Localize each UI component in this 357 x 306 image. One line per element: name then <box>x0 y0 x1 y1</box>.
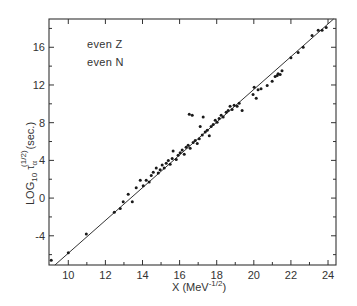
data-point <box>135 186 138 189</box>
data-point <box>325 26 328 29</box>
data-point <box>139 179 142 182</box>
data-point <box>253 86 256 89</box>
x-tick-label: 22 <box>285 269 297 281</box>
data-point <box>127 193 130 196</box>
y-tick-label: 16 <box>33 41 45 53</box>
y-axis-label: LOG10τα(1/2)(sec.) <box>19 122 39 205</box>
data-point <box>302 46 305 49</box>
data-point <box>188 113 191 116</box>
annotation-even-z: even Z <box>87 38 122 50</box>
data-point <box>289 56 292 59</box>
data-point <box>142 184 145 187</box>
data-point <box>212 123 215 126</box>
data-point <box>216 121 219 124</box>
data-point <box>161 164 164 167</box>
data-point <box>297 51 300 54</box>
data-point <box>271 80 274 83</box>
data-point <box>152 171 155 174</box>
data-point <box>171 157 174 160</box>
data-point <box>155 166 158 169</box>
y-tick-label: 12 <box>33 79 45 91</box>
data-point <box>231 108 234 111</box>
data-point <box>208 134 211 137</box>
x-tick-label: 24 <box>322 269 334 281</box>
data-point <box>169 163 172 166</box>
data-point <box>241 109 244 112</box>
data-point <box>119 207 122 210</box>
scatter-chart: 1012141618202224-40481216 even Z even N … <box>0 0 357 306</box>
data-point <box>255 97 258 100</box>
y-tick-label: 8 <box>39 117 45 129</box>
data-point <box>85 232 88 235</box>
y-tick-label: -4 <box>35 230 45 242</box>
data-point <box>317 29 320 32</box>
x-tick-label: 20 <box>248 269 260 281</box>
data-point <box>194 139 197 142</box>
data-point <box>157 172 160 175</box>
data-point <box>206 129 209 132</box>
data-point <box>238 102 241 105</box>
data-point <box>229 105 232 108</box>
data-point <box>187 144 190 147</box>
annotation-even-n: even N <box>87 56 124 68</box>
data-point <box>167 159 170 162</box>
data-point <box>222 116 225 119</box>
x-tick-label: 16 <box>173 269 185 281</box>
data-point <box>260 87 263 90</box>
data-point <box>218 117 221 120</box>
y-tick-label: 0 <box>39 192 45 204</box>
data-point <box>236 105 239 108</box>
data-point <box>199 125 202 128</box>
data-point <box>311 34 314 37</box>
data-point <box>159 168 162 171</box>
data-point <box>321 29 324 32</box>
data-point <box>145 179 148 182</box>
data-point <box>165 162 168 165</box>
data-point <box>150 174 153 177</box>
data-point <box>67 251 70 254</box>
data-point <box>177 154 180 157</box>
data-point <box>279 73 282 76</box>
data-point <box>191 114 194 117</box>
data-point <box>252 93 255 96</box>
data-point <box>233 104 236 107</box>
data-point <box>202 116 205 119</box>
data-point <box>201 133 204 136</box>
x-tick-label: 14 <box>136 269 148 281</box>
data-point <box>266 84 269 87</box>
data-point <box>281 69 284 72</box>
data-point <box>196 142 199 145</box>
data-point <box>50 259 53 262</box>
data-point <box>227 109 230 112</box>
data-point <box>172 149 175 152</box>
data-point <box>189 147 192 150</box>
data-point <box>163 166 166 169</box>
data-point <box>179 151 182 154</box>
data-point <box>113 211 116 214</box>
data-point <box>198 137 201 140</box>
y-tick-label: 4 <box>39 154 45 166</box>
x-axis-label: X (MeV-1/2) <box>172 279 226 293</box>
data-point <box>257 88 260 91</box>
x-tick-label: 12 <box>99 269 111 281</box>
data-point <box>183 153 186 156</box>
data-point <box>131 200 134 203</box>
data-point <box>122 200 125 203</box>
data-point <box>181 149 184 152</box>
data-point <box>175 158 178 161</box>
x-tick-label: 10 <box>62 269 74 281</box>
data-point <box>148 181 151 184</box>
